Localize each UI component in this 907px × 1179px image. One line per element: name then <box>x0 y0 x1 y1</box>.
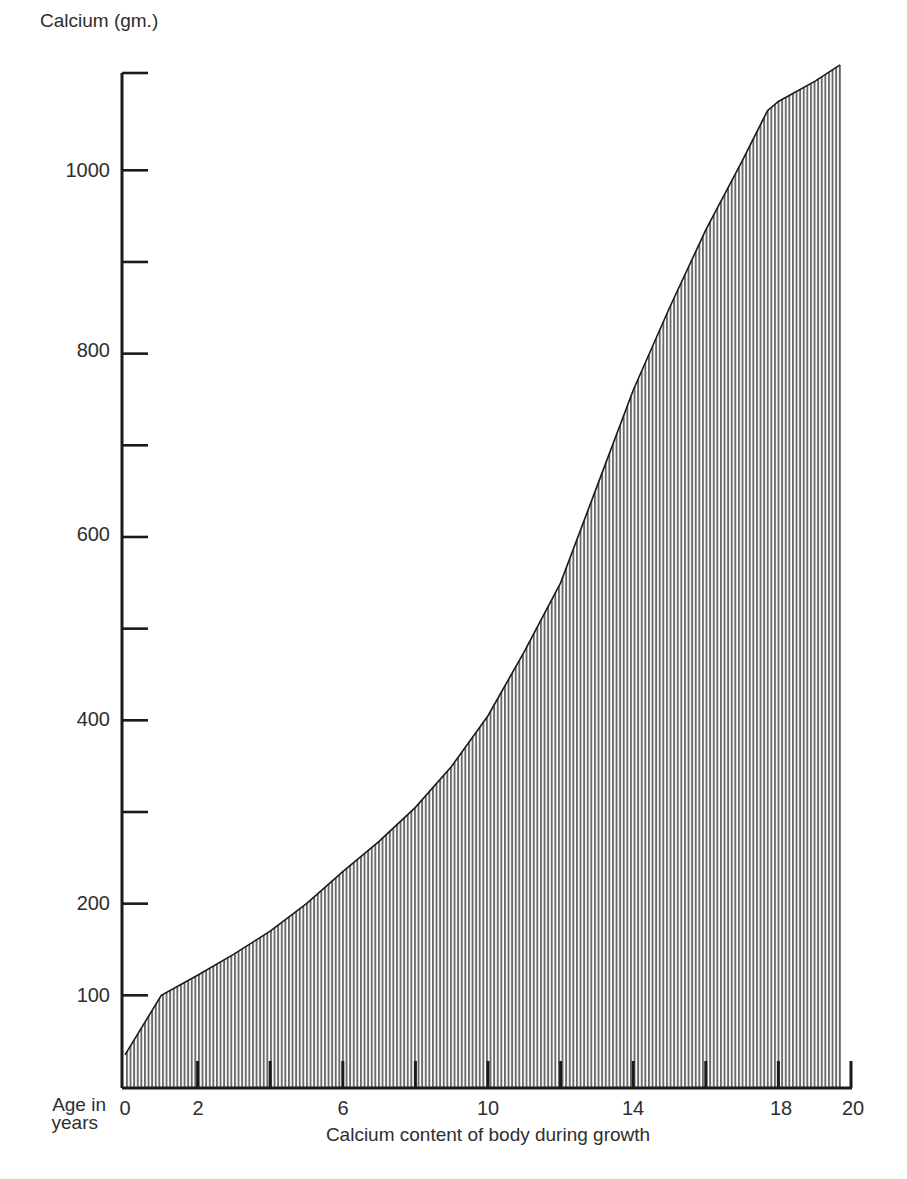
x-tick-label-20: 20 <box>842 1097 864 1119</box>
y-tick-label-600: 600 <box>77 523 110 545</box>
x-tick-label-2: 2 <box>192 1097 203 1119</box>
calcium-growth-chart: Calcium (gm.) 1000 800 600 400 200 100 0… <box>0 0 907 1179</box>
x-tick-label-0: 0 <box>119 1097 130 1119</box>
y-tick-label-1000: 1000 <box>66 159 111 181</box>
calcium-area <box>125 65 840 1088</box>
x-tick-label-10: 10 <box>477 1097 499 1119</box>
chart-caption: Calcium content of body during growth <box>326 1124 650 1145</box>
y-tick-label-800: 800 <box>77 339 110 361</box>
y-axis-ticks <box>122 73 148 995</box>
x-tick-label-18: 18 <box>770 1097 792 1119</box>
y-axis-title: Calcium (gm.) <box>40 10 158 31</box>
y-tick-label-400: 400 <box>77 708 110 730</box>
x-axis-title-line2: years <box>52 1112 98 1133</box>
y-tick-label-100: 100 <box>77 984 110 1006</box>
x-tick-label-14: 14 <box>622 1097 644 1119</box>
y-tick-label-200: 200 <box>77 892 110 914</box>
x-tick-label-6: 6 <box>337 1097 348 1119</box>
